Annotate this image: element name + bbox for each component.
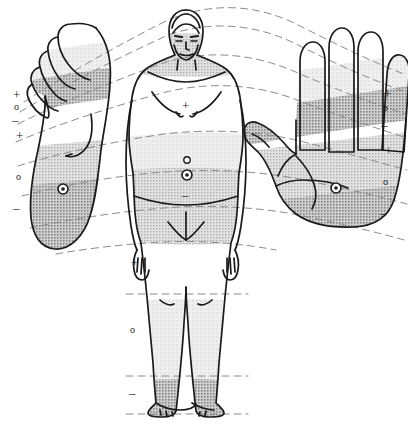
hand-marker-6: – bbox=[380, 206, 387, 219]
body-marker-lower-leg: o bbox=[130, 325, 135, 335]
body-navel-target bbox=[182, 170, 192, 180]
hand-marker-5: o bbox=[383, 177, 388, 187]
hand-palm-target bbox=[331, 183, 341, 193]
body-marker-chest: + bbox=[182, 99, 189, 112]
foot-marker-4: + bbox=[16, 129, 23, 142]
foot-marker-1: + bbox=[13, 88, 20, 101]
hand-marker-1: + bbox=[384, 87, 391, 100]
hand-marker-2: o bbox=[383, 103, 388, 113]
body-marker-thigh: + bbox=[131, 256, 138, 269]
foot-marker-3: – bbox=[12, 113, 19, 126]
somatotopic-figure: + o – + o – + o – + o – + – + o – bbox=[0, 0, 408, 426]
hand-marker-4: + bbox=[385, 144, 392, 157]
foot-marker-5: o bbox=[16, 172, 21, 182]
foot-heel-target bbox=[58, 184, 68, 194]
body-marker-ankle: – bbox=[129, 386, 136, 399]
foot-marker-6: – bbox=[13, 201, 20, 214]
body-marker-lower-abdomen: – bbox=[182, 188, 189, 201]
figure-caption bbox=[0, 416, 408, 426]
hand-marker-3: – bbox=[381, 118, 388, 131]
body-upper-abdomen-circle bbox=[184, 157, 190, 163]
foot-marker-2: o bbox=[14, 102, 19, 112]
figure-drawing bbox=[0, 0, 408, 426]
